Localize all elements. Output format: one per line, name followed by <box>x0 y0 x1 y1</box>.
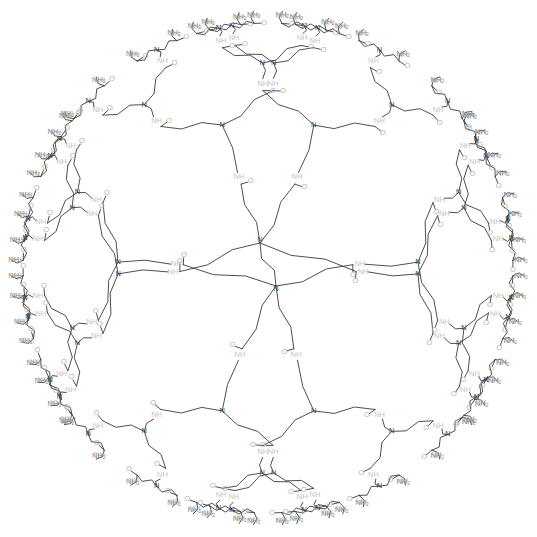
carbonyl-o-label: O <box>320 45 326 54</box>
carbonyl-o-label: O <box>462 153 468 162</box>
amide-nh-label: NH <box>433 105 444 114</box>
carbonyl-o-label: O <box>184 494 190 503</box>
carbonyl-o-label: O <box>210 481 216 490</box>
carbonyl-o-label: O <box>183 32 189 41</box>
carbonyl-o-label: O <box>358 468 364 477</box>
amide-nh-label: NH <box>157 56 168 65</box>
bond <box>301 46 308 47</box>
carbonyl-o-label: O <box>230 340 236 349</box>
nitrogen-label: N <box>154 45 159 54</box>
carbonyl-o-label: O <box>423 423 429 432</box>
amide-nh-label: NH <box>171 259 182 268</box>
bond <box>183 265 276 286</box>
amide-nh-label: NH <box>469 157 480 166</box>
amide-nh-label: NH <box>368 56 379 65</box>
amide-nh-label: NH <box>91 331 102 340</box>
nitrogen-label: N <box>389 100 394 109</box>
carbonyl-o-label: O <box>203 26 209 35</box>
nitrogen-label: N <box>216 503 221 512</box>
nitrogen-label: N <box>57 134 62 143</box>
carbonyl-o-label: O <box>270 86 276 95</box>
bond <box>235 46 274 64</box>
bond <box>222 125 237 173</box>
nitrogen-label: N <box>377 45 382 54</box>
bond <box>314 48 321 50</box>
nitrogen-label: N <box>456 338 461 347</box>
amine-label: NH2 <box>496 358 510 367</box>
nitrogen-label: N <box>142 100 147 109</box>
amide-nh-label: NH <box>216 36 227 45</box>
nitrogen-label: N <box>69 323 74 332</box>
nitrogen-label: N <box>415 269 420 278</box>
amide-nh-label: NH <box>434 195 445 204</box>
dendrimer-diagram: NNONHNONHNONHNONHNH2ONHNH2ONHNONHNH2ONHN… <box>0 0 537 537</box>
amide-nh-label: NH <box>368 470 379 479</box>
amine-label: NH2 <box>513 235 527 244</box>
amide-nh-label: NH <box>151 116 162 125</box>
amide-nh-label: NH <box>32 234 43 243</box>
bond <box>247 512 254 513</box>
carbonyl-o-label: O <box>172 58 178 67</box>
carbonyl-o-label: O <box>28 324 34 333</box>
amide-nh-label: NH <box>493 234 504 243</box>
carbonyl-o-label: O <box>154 459 160 468</box>
amide-nh-label: NH <box>493 291 504 300</box>
carbonyl-o-label: O <box>43 298 49 307</box>
amine-label: NH2 <box>488 150 502 159</box>
amide-nh-label: NH <box>374 116 385 125</box>
bond <box>263 411 314 446</box>
bond <box>183 258 184 265</box>
carbonyl-o-label: O <box>242 39 248 48</box>
carbonyl-o-label: O <box>433 207 439 216</box>
bond <box>236 347 243 349</box>
carbonyl-o-label: O <box>104 188 110 197</box>
carbonyl-o-label: O <box>283 507 289 516</box>
bond <box>235 45 242 46</box>
carbonyl-o-label: O <box>166 116 172 125</box>
nitrogen-label: N <box>301 21 306 30</box>
nitrogen-label: N <box>273 284 278 293</box>
nitrogen-label: N <box>229 505 234 514</box>
carbonyl-o-label: O <box>23 226 29 235</box>
nitrogen-label: N <box>142 426 147 435</box>
carbonyl-o-label: O <box>21 245 27 254</box>
carbonyl-o-label: O <box>197 498 203 507</box>
carbonyl-o-label: O <box>93 306 99 315</box>
amide-nh-label: NH <box>234 172 245 181</box>
bond <box>144 68 165 105</box>
carbonyl-o-label: O <box>289 19 295 28</box>
nitrogen-label: N <box>315 23 320 32</box>
carbonyl-o-label: O <box>109 74 115 83</box>
carbonyl-o-label: O <box>34 345 40 354</box>
nitrogen-label: N <box>445 429 450 438</box>
bond <box>118 270 168 274</box>
nitrogen-label: N <box>415 257 420 266</box>
carbonyl-o-label: O <box>387 475 393 484</box>
carbonyl-o-label: O <box>376 67 382 76</box>
bond <box>298 360 314 411</box>
amide-nh-label: NH <box>86 317 97 326</box>
carbonyl-o-label: O <box>496 181 502 190</box>
bond <box>242 286 276 349</box>
carbonyl-o-label: O <box>451 389 457 398</box>
amine-label: NH2 <box>396 49 410 58</box>
amide-nh-label: NH <box>309 490 320 499</box>
carbonyl-o-label: O <box>365 39 371 48</box>
carbonyl-o-label: O <box>47 208 53 217</box>
carbonyl-o-label: O <box>460 375 466 384</box>
bond <box>155 405 161 409</box>
nitrogen-label: N <box>154 481 159 490</box>
amine-label: NH2 <box>514 271 528 280</box>
nitrogen-label: N <box>85 429 90 438</box>
bond <box>314 123 375 129</box>
amide-nh-label: NH <box>292 172 303 181</box>
nitrogen-label: N <box>69 203 74 212</box>
carbonyl-o-label: O <box>496 343 502 352</box>
carbonyl-o-label: O <box>34 183 40 192</box>
bond <box>282 23 289 24</box>
bond <box>161 407 222 413</box>
amine-label: NH2 <box>475 399 489 408</box>
carbonyl-o-label: O <box>20 261 26 270</box>
bond <box>260 184 295 243</box>
carbonyl-o-label: O <box>327 500 333 509</box>
